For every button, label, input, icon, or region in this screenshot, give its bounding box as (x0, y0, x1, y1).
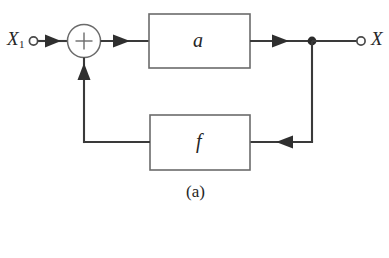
arrowhead-a-to-node (272, 35, 289, 48)
output-terminal-circle (357, 37, 365, 45)
input-signal-label: X1 (7, 29, 25, 50)
input-signal-label-subscript: 1 (19, 38, 25, 50)
block-f-label: f (196, 131, 202, 151)
arrowhead-input (45, 35, 61, 48)
figure-caption: (a) (186, 183, 205, 200)
input-terminal-circle (29, 37, 37, 45)
arrowhead-feedback-into-f (276, 136, 293, 149)
block-diagram-figure: X1 X a f (a) (0, 0, 389, 258)
block-a-label: a (193, 30, 203, 50)
arrowhead-feedback-into-summer (78, 63, 91, 80)
output-signal-label: X (371, 29, 383, 48)
input-signal-label-text: X (7, 28, 19, 49)
arrowhead-summer-to-a (113, 35, 130, 48)
